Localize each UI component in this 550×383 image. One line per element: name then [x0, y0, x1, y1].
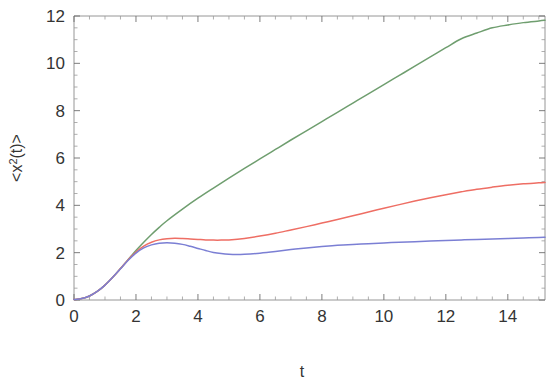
y-tick-label: 8 — [56, 102, 65, 121]
x-tick-label: 12 — [436, 307, 455, 326]
x-tick-label: 6 — [255, 307, 264, 326]
x-tick-label: 10 — [374, 307, 393, 326]
x-tick-label: 14 — [498, 307, 517, 326]
x-tick-label: 4 — [193, 307, 202, 326]
y-tick-label: 0 — [56, 291, 65, 310]
y-axis-title-arg: (t)> — [8, 134, 25, 158]
y-tick-label: 6 — [56, 149, 65, 168]
line-chart: 02468101214 024681012 t <x2(t)> — [0, 0, 550, 383]
x-tick-label: 8 — [317, 307, 326, 326]
y-axis-title-text: <x2(t)> — [7, 134, 25, 182]
x-tick-label: 2 — [131, 307, 140, 326]
y-axis-title: <x2(t)> — [7, 134, 25, 182]
x-axis-title: t — [300, 363, 305, 380]
x-tick-label: 0 — [69, 307, 78, 326]
chart-figure: 02468101214 024681012 t <x2(t)> — [0, 0, 550, 383]
y-axis-title-open: <x — [8, 165, 25, 182]
y-tick-label: 12 — [46, 7, 65, 26]
y-tick-label: 2 — [56, 244, 65, 263]
y-tick-label: 10 — [46, 54, 65, 73]
y-tick-label: 4 — [56, 196, 65, 215]
